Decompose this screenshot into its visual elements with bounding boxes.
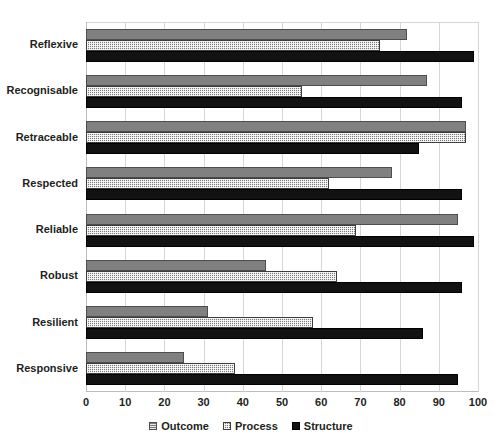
x-tick-10: 10	[105, 396, 145, 408]
bar-process-respected	[86, 178, 329, 189]
bar-structure-resilient	[86, 328, 423, 339]
bar-outcome-retraceable	[86, 121, 466, 132]
bar-outcome-robust	[86, 260, 266, 271]
category-label-recognisable: Recognisable	[0, 84, 78, 96]
gridline-100	[478, 22, 479, 392]
x-tick-30: 30	[184, 396, 224, 408]
bar-group-robust	[86, 253, 478, 299]
category-label-reliable: Reliable	[0, 223, 78, 235]
bar-structure-reliable	[86, 236, 474, 247]
legend-label: Process	[235, 420, 278, 432]
bar-process-resilient	[86, 317, 313, 328]
bar-group-responsive	[86, 346, 478, 392]
bar-outcome-responsive	[86, 352, 184, 363]
legend-label: Structure	[304, 420, 353, 432]
category-label-retraceable: Retraceable	[0, 131, 78, 143]
bar-process-reflexive	[86, 40, 380, 51]
structure-swatch-icon	[292, 422, 300, 430]
x-tick-20: 20	[144, 396, 184, 408]
category-label-respected: Respected	[0, 177, 78, 189]
legend-label: Outcome	[161, 420, 209, 432]
bar-process-robust	[86, 271, 337, 282]
x-tick-50: 50	[262, 396, 302, 408]
bar-process-reliable	[86, 225, 356, 236]
bar-group-reliable	[86, 207, 478, 253]
bar-outcome-reflexive	[86, 29, 407, 40]
x-tick-90: 90	[419, 396, 459, 408]
bar-outcome-recognisable	[86, 75, 427, 86]
bar-outcome-resilient	[86, 306, 208, 317]
bar-group-reflexive	[86, 22, 478, 68]
bar-group-recognisable	[86, 68, 478, 114]
legend-item-outcome[interactable]: Outcome	[149, 420, 209, 432]
bar-structure-respected	[86, 189, 462, 200]
bar-process-recognisable	[86, 86, 302, 97]
category-label-responsive: Responsive	[0, 362, 78, 374]
outcome-swatch-icon	[149, 422, 157, 430]
bar-structure-reflexive	[86, 51, 474, 62]
category-label-robust: Robust	[0, 269, 78, 281]
bar-structure-robust	[86, 282, 462, 293]
chart-legend: OutcomeProcessStructure	[0, 420, 502, 432]
bar-group-retraceable	[86, 115, 478, 161]
bar-structure-recognisable	[86, 97, 462, 108]
category-label-reflexive: Reflexive	[0, 38, 78, 50]
x-tick-100: 100	[458, 396, 498, 408]
bar-process-retraceable	[86, 132, 466, 143]
plot-area	[86, 22, 478, 392]
bar-process-responsive	[86, 363, 235, 374]
x-tick-60: 60	[301, 396, 341, 408]
bar-group-resilient	[86, 300, 478, 346]
bar-outcome-respected	[86, 167, 392, 178]
x-tick-80: 80	[380, 396, 420, 408]
x-tick-70: 70	[340, 396, 380, 408]
category-label-resilient: Resilient	[0, 316, 78, 328]
bar-outcome-reliable	[86, 214, 458, 225]
process-swatch-icon	[223, 422, 231, 430]
x-tick-40: 40	[223, 396, 263, 408]
legend-item-process[interactable]: Process	[223, 420, 278, 432]
bar-group-respected	[86, 161, 478, 207]
bar-chart: ReflexiveRecognisableRetraceableRespecte…	[0, 0, 502, 447]
legend-item-structure[interactable]: Structure	[292, 420, 353, 432]
bar-structure-retraceable	[86, 143, 419, 154]
x-tick-0: 0	[66, 396, 106, 408]
bar-structure-responsive	[86, 374, 458, 385]
